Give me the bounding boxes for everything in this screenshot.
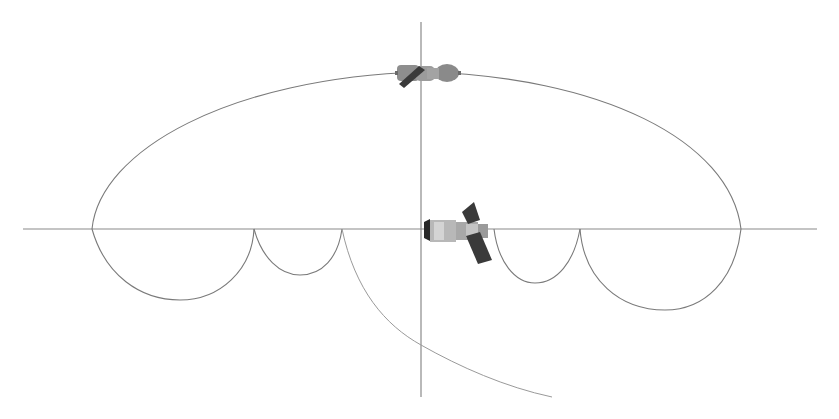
phasing-arc-right-large (580, 229, 741, 310)
phasing-arc-right-small (494, 229, 580, 283)
orbit-diagram (0, 0, 839, 419)
phasing-arc-left-large (92, 229, 254, 300)
transfer-orbit-upper (92, 72, 741, 229)
phasing-arc-left-small (254, 229, 342, 275)
soyuz-spacecraft-icon (395, 64, 461, 88)
descent-trajectory (342, 229, 552, 397)
space-station-icon (424, 202, 492, 264)
